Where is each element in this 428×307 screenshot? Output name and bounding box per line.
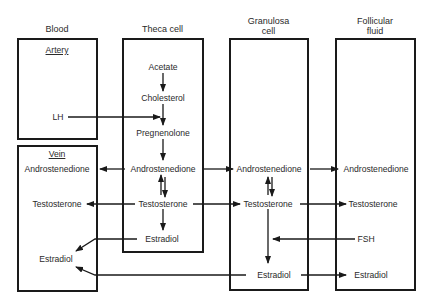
theca-estradiol: Estradiol [144,234,179,244]
follicular-androstenedione: Androstenedione [343,164,410,174]
follicular-testosterone: Testosterone [347,199,398,209]
fsh-label: FSH [356,234,375,244]
theca-cholesterol: Cholesterol [140,93,185,103]
artery-label: Artery [45,45,70,55]
granulosa-androstenedione: Androstenedione [236,164,303,174]
theca-pregnenolone: Pregnenolone [135,128,191,138]
lh-label: LH [52,112,65,122]
vein-testosterone: Testosterone [31,199,82,209]
vein-androstenedione: Androstenedione [24,164,91,174]
theca-androstenedione: Androstenedione [130,164,197,174]
vein-estradiol: Estradiol [38,254,73,264]
granulosa-estradiol: Estradiol [256,270,291,280]
theca-acetate: Acetate [147,62,178,72]
theca-testosterone: Testosterone [137,199,188,209]
follicular-estradiol: Estradiol [353,270,388,280]
vein-label: Vein [48,149,67,159]
granulosa-testosterone: Testosterone [242,199,293,209]
